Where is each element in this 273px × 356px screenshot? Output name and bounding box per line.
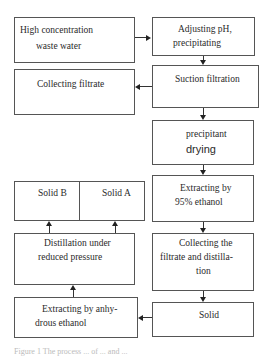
- node-extract-95-line2: 95% ethanol: [175, 196, 223, 209]
- node-extract-95: Extracting by 95% ethanol: [152, 175, 254, 222]
- arrow-suction-to-filtrate: [140, 86, 152, 87]
- arrow-head-down-icon: [200, 297, 206, 302]
- node-collect-distill: Collecting the filtrate and distilla- ti…: [152, 233, 254, 291]
- node-solid: Solid: [152, 302, 254, 337]
- node-waste-water: High concentration waste water: [14, 17, 135, 63]
- arrow-suction-to-drying: [203, 108, 204, 115]
- node-solid-line1: Solid: [199, 309, 219, 322]
- arrow-anhydrous-to-distill: [73, 290, 74, 297]
- node-extract-95-line1: Extracting by: [180, 182, 231, 195]
- arrow-head-down-icon: [200, 60, 206, 65]
- arrow-head-up-icon: [46, 221, 52, 226]
- arrow-head-left-icon: [138, 315, 143, 321]
- node-precipitant-drying-line1: precipitant: [186, 128, 227, 141]
- node-precipitant-drying: precipitant drying: [152, 120, 254, 165]
- node-distillation-reduced-line2: reduced pressure: [38, 251, 102, 264]
- node-distillation-reduced: Distillation under reduced pressure: [14, 233, 135, 285]
- node-collecting-filtrate-line1: Collecting filtrate: [37, 78, 104, 91]
- figure-caption: Figure 1 The process ... of ... and ...: [14, 347, 127, 356]
- node-precipitant-drying-line2: drying: [186, 143, 216, 156]
- node-suction-filtration-line1: Suction filtration: [175, 73, 240, 86]
- arrow-head-down-icon: [200, 228, 206, 233]
- node-adjust-ph-line2: precipitating: [173, 37, 221, 50]
- node-suction-filtration: Suction filtration: [152, 65, 259, 108]
- node-adjust-ph: Adjusting pH, precipitating: [152, 17, 255, 56]
- node-solid-b-label: Solid B: [38, 187, 67, 200]
- solids-divider: [79, 182, 80, 220]
- arrow-solid-to-anhydrous: [143, 317, 152, 318]
- arrow-head-down-icon: [200, 170, 206, 175]
- node-extract-anhydrous: Extracting by anhy- drous ethanol: [14, 297, 138, 338]
- node-distillation-reduced-line1: Distillation under: [44, 237, 111, 250]
- arrow-head-up-icon: [70, 285, 76, 290]
- node-solids: Solid B Solid A: [14, 181, 145, 221]
- node-solid-a-label: Solid A: [102, 187, 131, 200]
- node-collect-distill-line1: Collecting the: [179, 237, 233, 250]
- arrow-head-right-icon: [146, 35, 151, 41]
- arrow-distill-to-solid-a: [115, 226, 116, 233]
- node-waste-water-line1: High concentration: [20, 24, 93, 37]
- node-waste-water-line2: waste water: [36, 40, 81, 53]
- node-adjust-ph-line1: Adjusting pH,: [178, 23, 232, 36]
- arrow-distill-to-solid-b: [49, 226, 50, 233]
- node-collect-distill-line3: tion: [196, 265, 211, 278]
- node-extract-anhydrous-line2: drous ethanol: [35, 317, 86, 330]
- node-collect-distill-line2: filtrate and distilla-: [160, 251, 233, 264]
- arrow-head-left-icon: [135, 84, 140, 90]
- node-collecting-filtrate: Collecting filtrate: [14, 69, 135, 115]
- arrow-head-up-icon: [112, 221, 118, 226]
- node-extract-anhydrous-line1: Extracting by anhy-: [42, 303, 117, 316]
- arrow-head-down-icon: [200, 115, 206, 120]
